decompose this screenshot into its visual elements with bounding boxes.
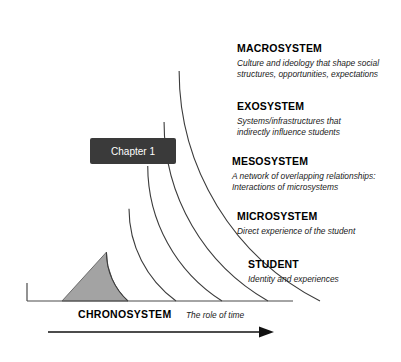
arc-mesosystem: [148, 166, 222, 301]
chapter-badge-label: Chapter 1: [111, 146, 155, 157]
chronosystem-desc: The role of time: [186, 310, 245, 320]
ring-desc-macrosystem: Culture and ideology that shape socialst…: [237, 58, 380, 79]
ring-labels: MACROSYSTEM Culture and ideology that sh…: [231, 42, 380, 284]
chapter-badge[interactable]: Chapter 1: [90, 138, 176, 164]
ring-desc-microsystem: Direct experience of the student: [237, 226, 356, 236]
arc-microsystem: [129, 209, 176, 301]
ring-title-macrosystem: MACROSYSTEM: [237, 42, 322, 54]
ring-desc-mesosystem: A network of overlapping relationships:I…: [231, 171, 376, 192]
ecological-systems-diagram: MACROSYSTEM Culture and ideology that sh…: [0, 0, 401, 362]
ring-title-mesosystem: MESOSYSTEM: [232, 155, 308, 167]
ring-desc-student: Identity and experiences: [248, 274, 340, 284]
diagram-canvas: MACROSYSTEM Culture and ideology that sh…: [0, 0, 401, 362]
ring-title-microsystem: MICROSYSTEM: [237, 210, 317, 222]
ring-title-student: STUDENT: [248, 258, 299, 270]
chronosystem-axis: CHRONOSYSTEM The role of time: [48, 308, 274, 338]
ring-title-exosystem: EXOSYSTEM: [237, 100, 304, 112]
chronosystem-arrow-head: [259, 327, 274, 338]
student-region-shape: [62, 252, 128, 301]
chronosystem-title: CHRONOSYSTEM: [78, 308, 171, 320]
ring-desc-exosystem: Systems/infrastructures thatindirectly i…: [237, 116, 341, 137]
